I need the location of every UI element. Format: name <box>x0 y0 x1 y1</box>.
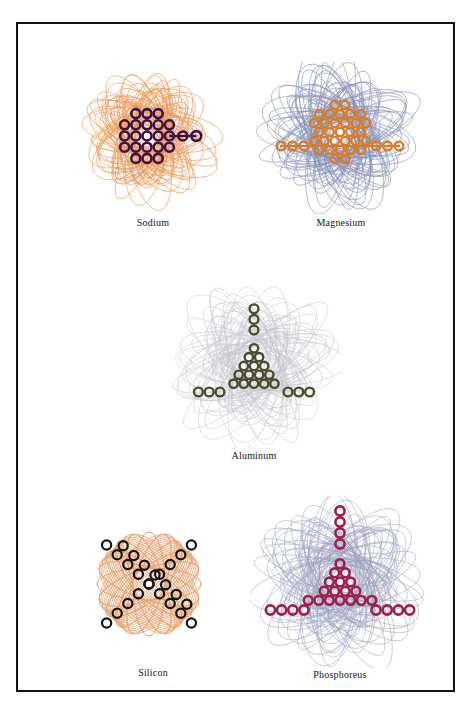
figure-magnesium: Magnesium <box>256 62 426 228</box>
atom-diagram-aluminum <box>166 286 342 448</box>
aluminum-svg <box>166 286 342 448</box>
figure-silicon: Silicon <box>73 512 233 678</box>
atom-diagram-magnesium <box>256 62 426 214</box>
caption-phosphoreus: Phosphoreus <box>250 670 430 680</box>
magnesium-svg <box>256 62 426 214</box>
atom-diagram-silicon <box>73 512 233 662</box>
atom-diagram-sodium <box>73 64 233 214</box>
atom-diagram-phosphoreus <box>250 496 430 668</box>
figure-aluminum: Aluminum <box>166 286 342 461</box>
silicon-svg <box>73 512 233 662</box>
illustration-frame: Sodium Magnesium Aluminum Silicon <box>16 22 455 692</box>
caption-silicon: Silicon <box>73 668 233 678</box>
figure-sodium: Sodium <box>73 64 233 228</box>
page-canvas: Sodium Magnesium Aluminum Silicon <box>0 0 471 709</box>
figure-phosphoreus: Phosphoreus <box>250 496 430 680</box>
caption-aluminum: Aluminum <box>166 451 342 461</box>
phosphoreus-svg <box>250 496 430 668</box>
caption-sodium: Sodium <box>73 218 233 228</box>
caption-magnesium: Magnesium <box>256 218 426 228</box>
sodium-svg <box>73 64 233 214</box>
